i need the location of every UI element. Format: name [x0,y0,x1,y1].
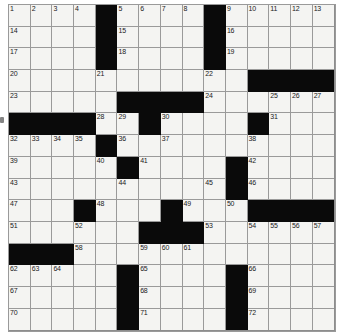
letter-cell[interactable] [74,309,96,331]
letter-cell[interactable]: 72 [248,309,270,331]
letter-cell[interactable] [96,244,118,266]
letter-cell[interactable]: 50 [226,200,248,222]
letter-cell[interactable] [183,27,205,49]
letter-cell[interactable] [74,265,96,287]
letter-cell[interactable]: 64 [52,265,74,287]
letter-cell[interactable]: 49 [183,200,205,222]
letter-cell[interactable]: 40 [96,157,118,179]
letter-cell[interactable]: 55 [269,222,291,244]
letter-cell[interactable] [96,179,118,201]
letter-cell[interactable] [96,287,118,309]
letter-cell[interactable] [204,135,226,157]
letter-cell[interactable]: 41 [139,157,161,179]
letter-cell[interactable]: 58 [74,244,96,266]
letter-cell[interactable] [161,309,183,331]
letter-cell[interactable]: 59 [139,244,161,266]
letter-cell[interactable]: 57 [313,222,335,244]
letter-cell[interactable] [183,48,205,70]
letter-cell[interactable] [226,92,248,114]
letter-cell[interactable]: 23 [9,92,31,114]
letter-cell[interactable] [269,265,291,287]
letter-cell[interactable]: 56 [291,222,313,244]
letter-cell[interactable] [204,200,226,222]
letter-cell[interactable] [161,265,183,287]
letter-cell[interactable] [269,309,291,331]
letter-cell[interactable] [313,287,335,309]
letter-cell[interactable] [269,135,291,157]
letter-cell[interactable] [183,157,205,179]
letter-cell[interactable]: 65 [139,265,161,287]
letter-cell[interactable] [139,70,161,92]
letter-cell[interactable] [183,113,205,135]
letter-cell[interactable]: 30 [161,113,183,135]
letter-cell[interactable]: 11 [269,5,291,27]
letter-cell[interactable] [313,48,335,70]
letter-cell[interactable]: 48 [96,200,118,222]
letter-cell[interactable]: 39 [9,157,31,179]
letter-cell[interactable] [161,179,183,201]
letter-cell[interactable]: 25 [269,92,291,114]
letter-cell[interactable]: 62 [9,265,31,287]
letter-cell[interactable]: 1 [9,5,31,27]
letter-cell[interactable] [313,27,335,49]
letter-cell[interactable] [74,157,96,179]
letter-cell[interactable]: 68 [139,287,161,309]
letter-cell[interactable]: 54 [248,222,270,244]
letter-cell[interactable] [161,70,183,92]
letter-cell[interactable] [291,287,313,309]
letter-cell[interactable] [31,48,53,70]
letter-cell[interactable] [291,179,313,201]
letter-cell[interactable]: 33 [31,135,53,157]
letter-cell[interactable]: 19 [226,48,248,70]
letter-cell[interactable] [117,244,139,266]
letter-cell[interactable]: 28 [96,113,118,135]
letter-cell[interactable] [52,92,74,114]
letter-cell[interactable]: 42 [248,157,270,179]
letter-cell[interactable] [139,135,161,157]
letter-cell[interactable]: 14 [9,27,31,49]
letter-cell[interactable] [183,70,205,92]
letter-cell[interactable] [248,48,270,70]
letter-cell[interactable] [204,157,226,179]
letter-cell[interactable] [183,179,205,201]
letter-cell[interactable]: 53 [204,222,226,244]
letter-cell[interactable]: 26 [291,92,313,114]
letter-cell[interactable]: 70 [9,309,31,331]
letter-cell[interactable] [52,48,74,70]
letter-cell[interactable]: 3 [52,5,74,27]
letter-cell[interactable] [313,113,335,135]
letter-cell[interactable] [269,48,291,70]
letter-cell[interactable] [52,157,74,179]
letter-cell[interactable]: 34 [52,135,74,157]
letter-cell[interactable] [31,222,53,244]
letter-cell[interactable]: 12 [291,5,313,27]
letter-cell[interactable] [96,92,118,114]
letter-cell[interactable] [96,309,118,331]
letter-cell[interactable] [204,309,226,331]
letter-cell[interactable] [291,27,313,49]
letter-cell[interactable]: 29 [117,113,139,135]
letter-cell[interactable]: 5 [117,5,139,27]
letter-cell[interactable]: 24 [204,92,226,114]
letter-cell[interactable]: 60 [161,244,183,266]
letter-cell[interactable] [31,70,53,92]
letter-cell[interactable]: 46 [248,179,270,201]
letter-cell[interactable] [226,244,248,266]
letter-cell[interactable] [269,244,291,266]
letter-cell[interactable]: 22 [204,70,226,92]
letter-cell[interactable] [248,27,270,49]
letter-cell[interactable] [226,113,248,135]
letter-cell[interactable] [291,265,313,287]
letter-cell[interactable] [204,265,226,287]
letter-cell[interactable]: 2 [31,5,53,27]
letter-cell[interactable] [313,157,335,179]
letter-cell[interactable] [74,179,96,201]
letter-cell[interactable]: 66 [248,265,270,287]
letter-cell[interactable] [204,287,226,309]
letter-cell[interactable]: 69 [248,287,270,309]
letter-cell[interactable]: 27 [313,92,335,114]
letter-cell[interactable] [291,157,313,179]
letter-cell[interactable] [204,244,226,266]
letter-cell[interactable]: 45 [204,179,226,201]
letter-cell[interactable] [183,135,205,157]
